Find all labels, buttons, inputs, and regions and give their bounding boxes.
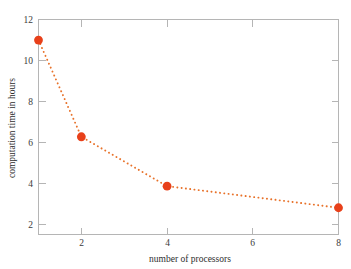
y-tick-label: 12 <box>24 15 34 25</box>
y-tick-label: 2 <box>28 220 33 230</box>
y-axis-title: computation time in hours <box>7 78 17 178</box>
x-tick-label: 6 <box>250 238 255 248</box>
y-tick-label: 6 <box>28 138 33 148</box>
data-point-marker <box>334 203 343 212</box>
x-tick-label: 2 <box>79 238 84 248</box>
y-tick-label: 10 <box>24 56 34 66</box>
plot-frame <box>39 20 339 235</box>
x-axis-title: number of processors <box>149 254 231 264</box>
line-chart: 12 10 8 6 4 2 2 4 6 8 number of processo… <box>0 0 351 269</box>
y-tick-label: 4 <box>28 179 33 189</box>
data-point-marker <box>77 132 86 141</box>
x-tick-label: 4 <box>165 238 170 248</box>
y-tick-labels: 12 10 8 6 4 2 <box>24 15 34 230</box>
data-series <box>34 36 343 212</box>
y-tick-label: 8 <box>28 97 33 107</box>
series-line <box>39 40 339 208</box>
x-tick-label: 8 <box>336 238 341 248</box>
data-point-marker <box>34 36 43 45</box>
data-point-marker <box>163 182 172 191</box>
x-axis-ticks <box>82 20 339 235</box>
x-tick-labels: 2 4 6 8 <box>79 238 341 248</box>
y-axis-ticks <box>39 20 339 225</box>
chart-page: 12 10 8 6 4 2 2 4 6 8 number of processo… <box>0 0 351 269</box>
